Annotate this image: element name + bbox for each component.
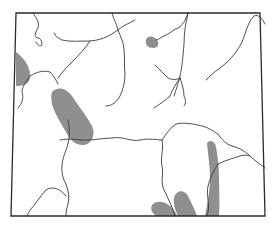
shaded-area-southeast-ridge: [205, 141, 219, 216]
shaded-area-south-lobe-west: [151, 202, 177, 216]
river-east-upper-ridge-river: [218, 134, 265, 168]
wyoming-map: [0, 0, 277, 230]
shaded-area-south-lobe-east: [174, 191, 197, 216]
river-northeast-river: [206, 15, 265, 80]
river-tributary-fork-left: [154, 78, 180, 108]
shaded-areas: [16, 37, 219, 216]
shaded-area-west-edge-area: [16, 52, 30, 86]
river-northwest-river: [33, 13, 42, 46]
river-diagonal-central-river: [58, 41, 90, 78]
river-east-lower-river: [218, 155, 250, 164]
state-outline: [11, 13, 265, 216]
shaded-area-central-west-ridge: [51, 89, 93, 146]
river-west-connector-river: [30, 71, 58, 84]
river-upper-west-river: [54, 20, 135, 41]
river-south-central-vertical: [162, 123, 218, 140]
shaded-area-north-central-spot: [146, 37, 159, 48]
river-tributary-west: [155, 65, 180, 80]
rivers: [18, 13, 265, 216]
river-tributary-fork-south: [180, 78, 186, 106]
river-upper-right-river: [156, 13, 188, 40]
river-southwest-loop-river: [27, 188, 66, 216]
